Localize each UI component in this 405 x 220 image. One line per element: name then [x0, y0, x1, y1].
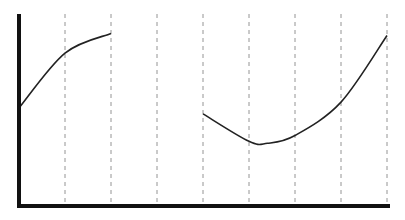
vertical-gridlines: [65, 14, 387, 206]
line-chart: [0, 0, 405, 220]
